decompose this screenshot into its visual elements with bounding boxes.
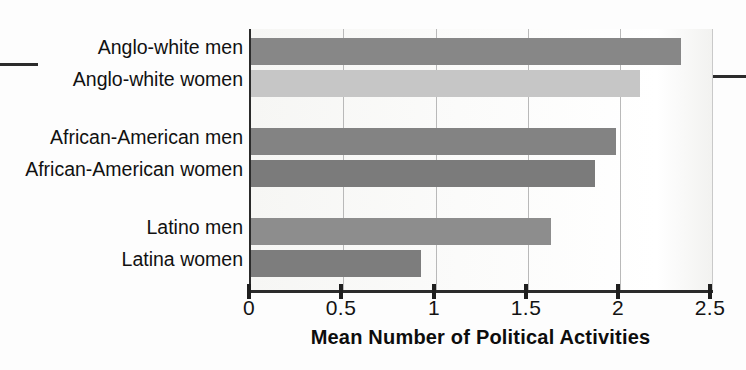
bar-african-american-women xyxy=(251,160,595,187)
category-label-anglo-white-men: Anglo-white men xyxy=(0,36,243,59)
page-edge-mark-right xyxy=(710,75,746,78)
x-tick-label-2: 2 xyxy=(588,296,648,320)
x-tick-label-0: 0 xyxy=(219,296,279,320)
bar-african-american-men xyxy=(251,128,616,155)
bar-anglo-white-men xyxy=(251,38,681,65)
x-tick-label-1.5: 1.5 xyxy=(496,296,556,320)
plot-area xyxy=(249,29,712,290)
category-axis-labels: Anglo-white men Anglo-white women Africa… xyxy=(0,0,243,370)
category-label-latino-men: Latino men xyxy=(0,216,243,239)
x-axis-title: Mean Number of Political Activities xyxy=(249,326,712,349)
x-axis-line xyxy=(249,290,713,293)
x-tick-label-1: 1 xyxy=(404,296,464,320)
bar-latino-men xyxy=(251,218,551,245)
bar-latina-women xyxy=(251,250,421,277)
x-tick-label-2.5: 2.5 xyxy=(680,296,740,320)
category-label-anglo-white-women: Anglo-white women xyxy=(0,68,243,91)
x-tick-label-0.5: 0.5 xyxy=(311,296,371,320)
category-label-african-american-men: African-American men xyxy=(0,126,243,149)
category-label-latina-women: Latina women xyxy=(0,248,243,271)
gridline-2 xyxy=(620,29,621,290)
gridline-2.5 xyxy=(712,29,713,290)
bar-chart-figure: Anglo-white men Anglo-white women Africa… xyxy=(0,0,746,370)
category-label-african-american-women: African-American women xyxy=(0,158,243,181)
bar-anglo-white-women xyxy=(251,70,640,97)
